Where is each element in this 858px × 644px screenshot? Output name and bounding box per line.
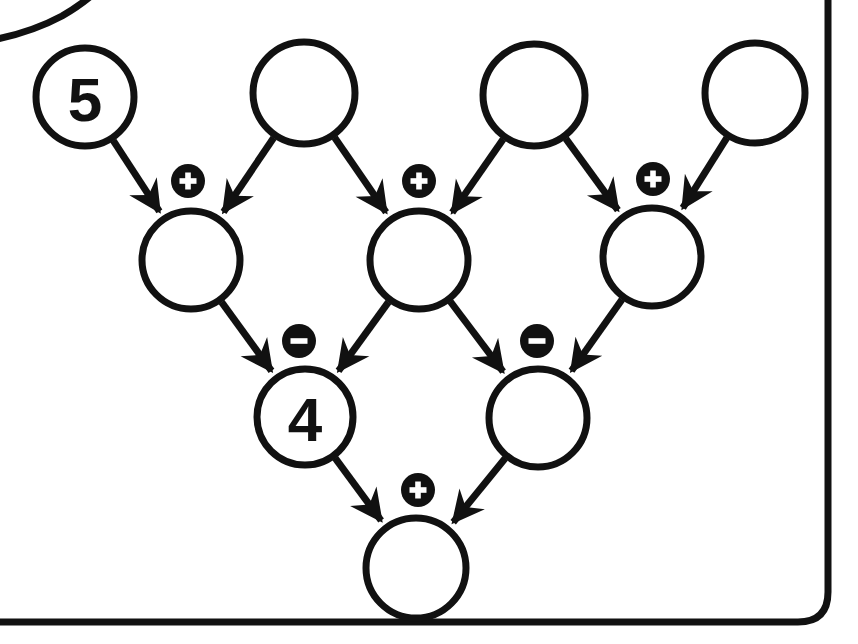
edge-arrow (452, 139, 503, 212)
node-circle[interactable] (370, 211, 468, 309)
edge-arrow (224, 138, 274, 212)
edge-arrow (453, 458, 505, 522)
node-empty-m3[interactable] (603, 208, 701, 306)
node-circle[interactable] (483, 44, 585, 146)
edge-arrow (566, 139, 618, 211)
minus-icon (529, 338, 546, 344)
node-circle[interactable] (603, 208, 701, 306)
diagram-svg: 54 (0, 0, 858, 644)
node-circle[interactable] (142, 211, 240, 309)
node-filled-b1[interactable]: 4 (257, 369, 353, 465)
operator-badge-plus[interactable] (398, 470, 439, 511)
card-border-inner-arc (0, 0, 118, 47)
node-empty-t2[interactable] (253, 42, 355, 144)
node-circle[interactable] (489, 369, 587, 467)
edge-arrow (339, 302, 389, 371)
node-circle[interactable] (253, 42, 355, 144)
edge-arrow (450, 302, 503, 372)
operator-badge-plus[interactable] (633, 159, 674, 200)
operator-badge-minus[interactable] (517, 321, 558, 362)
edge-arrow (683, 138, 727, 208)
node-circle[interactable] (366, 518, 466, 618)
operator-badge-plus[interactable] (399, 161, 440, 202)
node-empty-m1[interactable] (142, 211, 240, 309)
node-value-text: 5 (68, 65, 102, 134)
node-empty-r1[interactable] (366, 518, 466, 618)
puzzle-canvas: 54 (0, 0, 858, 644)
edge-arrow (335, 138, 387, 213)
edge-arrow (335, 458, 381, 520)
node-empty-t4[interactable] (705, 43, 805, 143)
plus-icon-vertical (416, 173, 422, 190)
edge-arrow (113, 141, 159, 212)
node-empty-t3[interactable] (483, 44, 585, 146)
operator-badge-minus[interactable] (279, 321, 320, 362)
node-empty-b2[interactable] (489, 369, 587, 467)
plus-icon-vertical (415, 482, 421, 499)
edge-arrow (572, 299, 623, 370)
node-circle[interactable] (705, 43, 805, 143)
minus-icon (291, 338, 308, 344)
plus-icon-vertical (185, 173, 191, 190)
node-value-text: 4 (288, 385, 323, 454)
plus-icon-vertical (650, 171, 656, 188)
node-empty-m2[interactable] (370, 211, 468, 309)
node-layer: 54 (36, 42, 805, 618)
node-filled-t1[interactable]: 5 (36, 48, 134, 146)
edge-arrow (222, 302, 272, 371)
operator-badge-plus[interactable] (168, 161, 209, 202)
